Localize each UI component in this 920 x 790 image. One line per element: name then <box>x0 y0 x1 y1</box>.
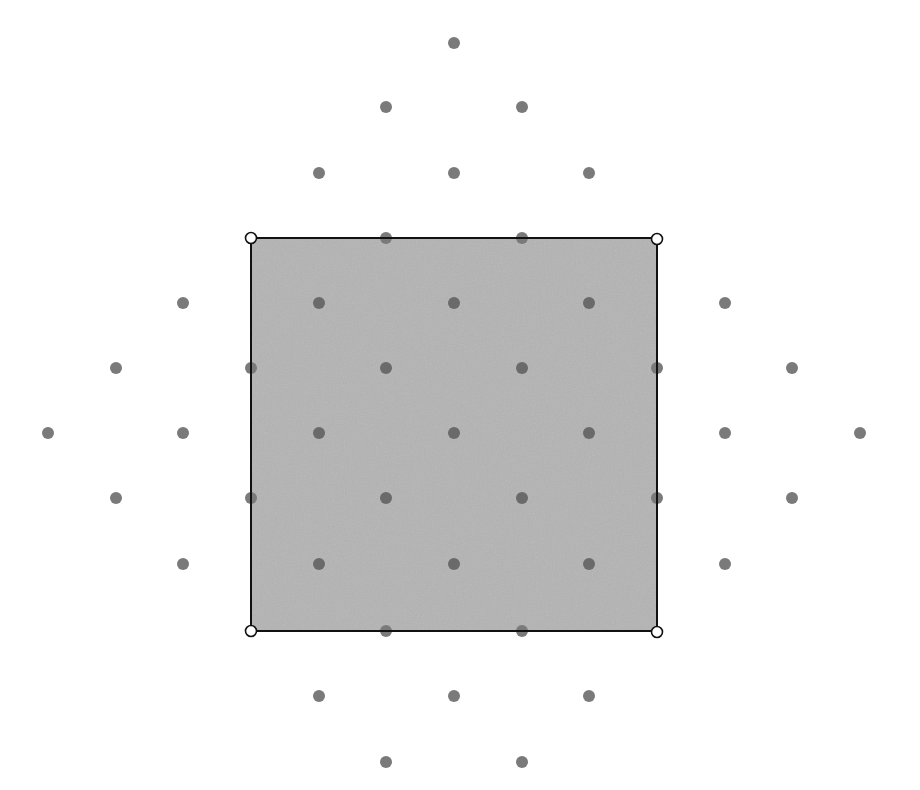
lattice-point <box>583 427 595 439</box>
lattice-point <box>719 558 731 570</box>
lattice-point <box>42 427 54 439</box>
lattice-diagram <box>0 0 920 790</box>
lattice-point <box>448 690 460 702</box>
lattice-point <box>313 167 325 179</box>
lattice-point <box>380 492 392 504</box>
lattice-point <box>313 690 325 702</box>
lattice-point <box>448 167 460 179</box>
corner-vertex-marker <box>652 627 663 638</box>
corner-vertex-marker <box>652 234 663 245</box>
lattice-point <box>583 167 595 179</box>
lattice-point <box>448 558 460 570</box>
diagram-canvas <box>0 0 920 790</box>
lattice-point <box>719 427 731 439</box>
lattice-point <box>786 362 798 374</box>
lattice-point <box>583 690 595 702</box>
lattice-point <box>313 297 325 309</box>
lattice-point <box>177 558 189 570</box>
lattice-point <box>313 558 325 570</box>
lattice-point <box>719 297 731 309</box>
lattice-point <box>177 297 189 309</box>
corner-vertex-marker <box>246 626 257 637</box>
lattice-point <box>516 362 528 374</box>
lattice-point <box>380 101 392 113</box>
lattice-point <box>313 427 325 439</box>
lattice-point <box>448 297 460 309</box>
lattice-point <box>380 362 392 374</box>
lattice-point <box>110 362 122 374</box>
lattice-point <box>583 558 595 570</box>
lattice-point <box>448 427 460 439</box>
lattice-point <box>854 427 866 439</box>
lattice-point <box>110 492 122 504</box>
lattice-point <box>786 492 798 504</box>
lattice-point <box>516 756 528 768</box>
lattice-point <box>177 427 189 439</box>
lattice-point <box>516 492 528 504</box>
lattice-point <box>516 101 528 113</box>
lattice-point <box>380 756 392 768</box>
corner-vertex-marker <box>246 233 257 244</box>
lattice-point <box>583 297 595 309</box>
lattice-point <box>448 37 460 49</box>
